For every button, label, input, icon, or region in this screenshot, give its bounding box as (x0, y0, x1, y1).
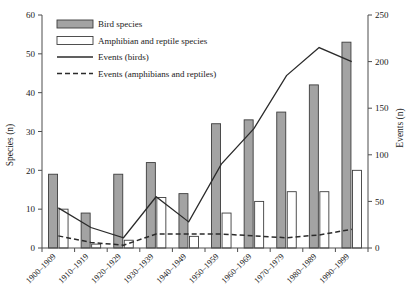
x-tick-label: 1940–1949 (154, 251, 188, 285)
y-tick-label: 30 (26, 127, 36, 137)
legend-item: Bird species (57, 19, 143, 29)
filled-bar-swatch (57, 20, 93, 28)
amphibian-reptile-species-bar (255, 201, 264, 248)
y-tick-label: 20 (26, 166, 36, 176)
bird-species-bar (342, 42, 351, 248)
y-tick-label: 60 (26, 10, 36, 20)
secondary-y-axis-label: Events (n) (395, 108, 406, 147)
legend-label: Amphibian and reptile species (98, 36, 208, 46)
y-axis-label: Species (n) (5, 124, 16, 166)
legend-label: Events (birds) (98, 52, 149, 62)
amphibian-reptile-species-bar (157, 198, 166, 248)
species-events-combo-chart: 0102030405060 050100150200250 1900–19091… (0, 0, 414, 301)
legend-item: Amphibian and reptile species (57, 36, 208, 46)
x-tick-label: 1970–1979 (252, 251, 286, 285)
amphibian-reptile-species-bar (92, 244, 101, 248)
right-axis: 050100150200250 (368, 10, 389, 253)
y-tick-label: 50 (26, 49, 36, 59)
bird-species-bar (244, 120, 253, 248)
x-tick-label: 1920–1929 (89, 251, 123, 285)
bird-species-bar (277, 112, 286, 248)
y-tick-label: 40 (26, 88, 36, 98)
legend-item: Events (birds) (57, 52, 149, 62)
open-bar-swatch (57, 37, 93, 45)
bird-species-bar (49, 174, 58, 248)
chart-container: 0102030405060 050100150200250 1900–19091… (0, 0, 414, 301)
y2-tick-label: 250 (375, 10, 389, 20)
y2-tick-label: 200 (375, 57, 389, 67)
bird-species-bar (81, 213, 90, 248)
amphibian-reptile-species-bar (320, 192, 329, 248)
amphibian-reptile-species-bar (352, 170, 361, 248)
legend-label: Bird species (98, 19, 143, 29)
x-axis: 1900–19091910–19191920–19291930–19391940… (24, 248, 368, 285)
y-tick-label: 0 (31, 243, 36, 253)
left-axis: 0102030405060 (26, 10, 42, 253)
x-tick-label: 1980–1989 (284, 251, 318, 285)
y-tick-label: 10 (26, 204, 36, 214)
bird-species-bar (309, 85, 318, 248)
x-tick-label: 1960–1969 (219, 251, 253, 285)
x-tick-label: 1930–1939 (121, 251, 155, 285)
bird-species-bar (212, 124, 221, 248)
amphibian-reptile-species-bar (189, 236, 198, 248)
y2-tick-label: 50 (375, 197, 385, 207)
x-tick-label: 1950–1959 (187, 251, 221, 285)
amphibian-reptile-species-bar (222, 213, 231, 248)
y2-tick-label: 100 (375, 150, 389, 160)
x-tick-label: 1910–1919 (56, 251, 90, 285)
x-tick-label: 1990–1999 (317, 251, 351, 285)
amphibian-reptile-species-bar (287, 192, 296, 248)
legend-label: Events (amphibians and reptiles) (98, 69, 216, 79)
chart-legend: Bird speciesAmphibian and reptile specie… (57, 19, 216, 78)
y2-tick-label: 0 (375, 243, 380, 253)
amphibian-reptile-species-bar (59, 209, 68, 248)
x-tick-label: 1900–1909 (24, 251, 58, 285)
y2-tick-label: 150 (375, 103, 389, 113)
legend-item: Events (amphibians and reptiles) (57, 69, 216, 79)
